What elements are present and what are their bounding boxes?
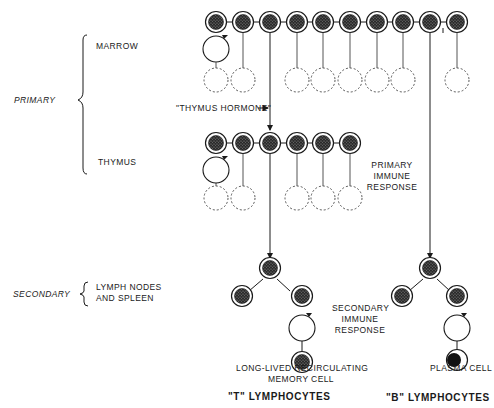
secondary-stage-label: SECONDARY [13, 289, 70, 300]
b-lymphocytes-label: "B" LYMPHOCYTES [386, 392, 490, 403]
t-lymphocyte-tree [232, 258, 316, 373]
marrow-label: MARROW [96, 41, 138, 52]
b-lymphocyte-tree [392, 258, 471, 371]
primary-immune-response-label: PRIMARY IMMUNE RESPONSE [362, 160, 422, 193]
secondary-brace-icon [80, 282, 88, 306]
thymus-label: THYMUS [98, 157, 136, 168]
primary-stage-label: PRIMARY [14, 95, 55, 106]
plasma-cell-label: PLASMA CELL [430, 363, 492, 374]
lymphocyte-diagram-graphics [0, 0, 494, 408]
thymus-hormone-label: "THYMUS HORMONE" [176, 103, 271, 114]
t-lymphocytes-label: "T" LYMPHOCYTES [228, 391, 331, 402]
marrow-row [203, 12, 469, 93]
thymus-row [203, 133, 362, 211]
memory-cell-label: LONG-LIVED RECIRCULATING MEMORY CELL [236, 363, 366, 385]
secondary-immune-response-label: SECONDARY IMMUNE RESPONSE [332, 303, 388, 336]
primary-brace-icon [78, 35, 87, 174]
lymph-nodes-label: LYMPH NODES AND SPLEEN [96, 282, 162, 304]
